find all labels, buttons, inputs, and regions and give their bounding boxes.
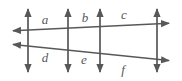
transversal-lines-group <box>13 23 169 60</box>
transversal-lower <box>13 44 169 60</box>
geometry-figure: a b c d e f <box>0 0 182 81</box>
figure-canvas: a b c d e f <box>0 0 182 81</box>
label-a: a <box>42 12 49 27</box>
region-labels-group: a b c d e f <box>42 7 127 77</box>
transversal-upper <box>13 23 169 31</box>
label-d: d <box>42 50 49 65</box>
label-f: f <box>121 62 127 77</box>
label-e: e <box>81 52 87 67</box>
label-c: c <box>121 7 127 22</box>
label-b: b <box>82 10 89 25</box>
